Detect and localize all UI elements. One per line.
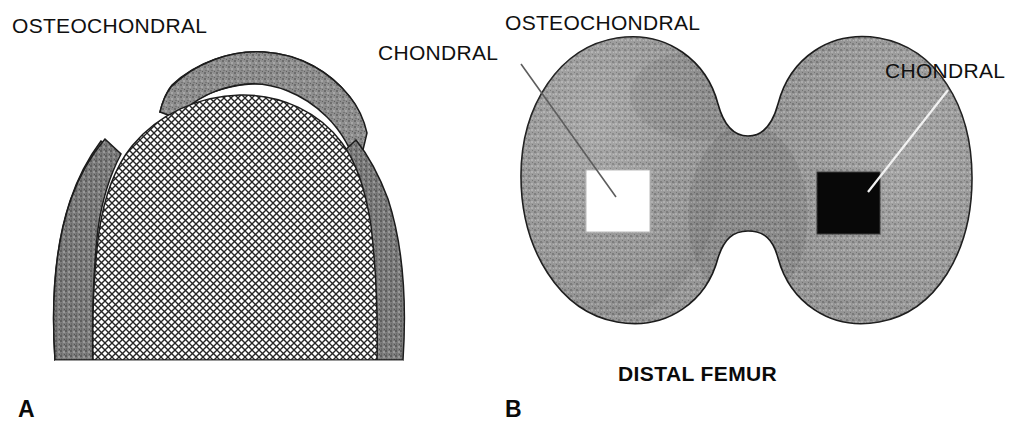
chondral-core-hatched [93, 95, 378, 360]
label-chondral-a: CHONDRAL [378, 41, 498, 64]
caption-distal-femur: DISTAL FEMUR [618, 362, 777, 385]
proximal-shading [630, 50, 770, 140]
figure-root: OSTEOCHONDRAL CHONDRAL OSTEOCHO [0, 0, 1018, 429]
panel-b: OSTEOCHONDRAL CHONDRAL DISTAL FEMUR [505, 11, 1005, 385]
chondral-cartilage-core [93, 95, 378, 360]
label-osteochondral-a: OSTEOCHONDRAL [12, 14, 207, 37]
panel-letter-a: A [18, 396, 35, 422]
label-osteochondral-b: OSTEOCHONDRAL [505, 11, 700, 34]
osteochondral-graft-site[interactable] [586, 170, 650, 232]
intercondylar-shading [688, 125, 808, 305]
chondral-graft-site[interactable] [817, 172, 880, 234]
anatomical-figure: OSTEOCHONDRAL CHONDRAL OSTEOCHO [0, 0, 1018, 429]
panel-letter-b: B [505, 396, 522, 422]
label-chondral-b: CHONDRAL [885, 59, 1005, 82]
panel-a: OSTEOCHONDRAL CHONDRAL [12, 14, 498, 361]
